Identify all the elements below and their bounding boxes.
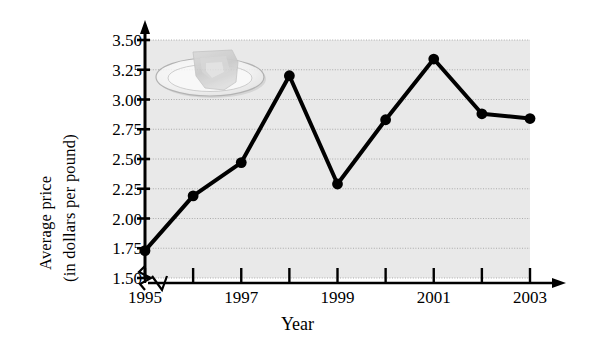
x-axis-tick-label: 1999: [321, 288, 355, 308]
x-axis-title: Year: [0, 314, 595, 335]
data-point-marker: 2003: 2.84: [525, 113, 536, 124]
data-point-marker: 1999: 2.29: [332, 179, 343, 190]
x-axis-tick-label: 1997: [224, 288, 258, 308]
x-axis-title-text: Year: [281, 314, 314, 335]
x-axis-tick-label: 2003: [513, 288, 547, 308]
x-axis: [148, 278, 566, 288]
data-point-marker: 2001: 3.34: [428, 54, 439, 65]
chart-figure: Average price (in dollars per pound) 1.5…: [0, 0, 595, 346]
data-point-marker: 1996: 2.19: [188, 190, 199, 201]
data-point-marker: 1998: 3.2: [284, 70, 295, 81]
x-axis-tick-label: 1995: [128, 288, 162, 308]
data-point-marker: 1995: 1.73: [140, 245, 151, 256]
data-point-marker: 2000: 2.83: [380, 114, 391, 125]
x-axis-tick-label: 2001: [417, 288, 451, 308]
x-axis-tick-labels: 19951997199920012003: [0, 288, 595, 314]
data-point-marker: 1997: 2.47: [236, 157, 247, 168]
data-point-marker: 2002: 2.88: [476, 108, 487, 119]
